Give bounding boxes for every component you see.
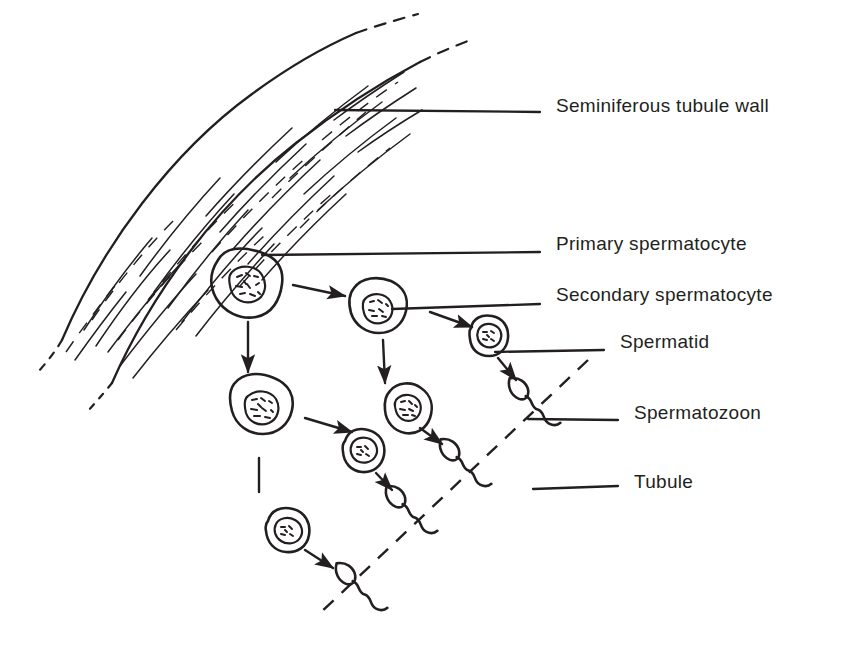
arrow-spermatid2-to-sperm3	[376, 473, 392, 490]
label-secondary-spermatocyte: Secondary spermatocyte	[556, 285, 773, 304]
leader-spermatid	[495, 350, 604, 352]
cell-spermatid-3	[266, 508, 310, 552]
spermatozoon-3	[380, 481, 437, 542]
tubule-wall-outer-edge-dash-start	[38, 340, 62, 372]
figure-canvas: Seminiferous tubule wall Primary spermat…	[0, 0, 842, 660]
cell-membrane	[349, 278, 407, 333]
label-seminiferous-tubule-wall: Seminiferous tubule wall	[556, 96, 769, 115]
chromatin-speckles	[483, 331, 494, 341]
cell-primary-spermatocyte-1	[211, 249, 282, 318]
spermatozoon-4	[330, 558, 387, 619]
arrow-primary1-to-secondary1	[293, 285, 345, 296]
cell-primary-spermatocyte-2	[230, 374, 293, 434]
chromatin-speckles	[400, 401, 417, 416]
label-primary-spermatocyte: Primary spermatocyte	[556, 234, 747, 253]
tubule-wall-fibre-flecks	[66, 82, 398, 352]
leader-primary-spermatocyte	[262, 252, 540, 255]
spermatozoon-1	[503, 373, 560, 434]
arrow-primary2-to-secondary2	[305, 418, 352, 432]
arrow-spermatid1-to-sperm1	[498, 358, 516, 380]
leader-seminiferous-tubule-wall	[335, 110, 540, 112]
label-spermatozoon: Spermatozoon	[634, 403, 761, 422]
sperm-tail	[351, 576, 387, 614]
sperm-tail	[524, 391, 560, 429]
arrow-secondary2-to-sperm2	[420, 428, 442, 444]
acrosome-ring	[275, 518, 302, 543]
tubule-wall-inner-edge-dash-start	[87, 383, 112, 412]
cell-secondary-spermatocyte-2	[385, 383, 432, 433]
arrow-secondary1-down	[383, 340, 385, 383]
arrow-secondary1-to-spermatid1	[430, 312, 472, 327]
chromatin-speckles	[251, 398, 273, 418]
acrosome-ring	[477, 324, 501, 348]
leader-tubule	[533, 486, 618, 489]
cell-spermatid-1	[469, 316, 508, 357]
cell-secondary-spermatocyte-1	[349, 278, 407, 333]
tubule-wall-outer-edge-dash-end	[356, 14, 418, 33]
sperm-tail	[455, 452, 491, 490]
chromatin-speckles	[369, 300, 388, 317]
chromatin-speckles	[281, 526, 293, 536]
leader-secondary-spermatocyte	[392, 304, 540, 309]
seminiferous-tubule-wall-structure	[38, 14, 468, 412]
acrosome-ring	[351, 438, 377, 463]
cell-spermatid-2	[343, 429, 385, 472]
chromatin-speckles	[357, 446, 369, 456]
arrow-spermatid3-to-sperm4	[305, 550, 333, 568]
spermatozoon-2	[434, 434, 491, 495]
label-tubule: Tubule	[634, 472, 693, 491]
nucleus-membrane	[363, 294, 393, 323]
tubule-wall-inner-edge-dash-end	[420, 41, 468, 62]
label-spermatid: Spermatid	[620, 332, 709, 351]
leader-spermatozoon	[528, 419, 618, 420]
